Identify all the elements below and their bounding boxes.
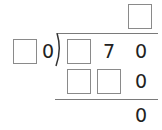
dividend-blank-box[interactable]	[67, 39, 91, 64]
quotient-blank-box[interactable]	[128, 4, 152, 29]
product-digit-ones: 0	[134, 71, 148, 91]
remainder-digit: 0	[134, 105, 148, 125]
divisor-blank-box[interactable]	[13, 39, 37, 64]
divisor-digit: 0	[41, 41, 55, 61]
division-bracket-icon	[54, 33, 62, 67]
dividend-digit-ones: 0	[134, 41, 148, 61]
product-blank-box-2[interactable]	[97, 69, 121, 94]
subtraction-line	[55, 99, 158, 100]
division-vinculum	[58, 33, 158, 34]
product-blank-box-1[interactable]	[67, 69, 91, 94]
dividend-digit-tens: 7	[102, 41, 116, 61]
